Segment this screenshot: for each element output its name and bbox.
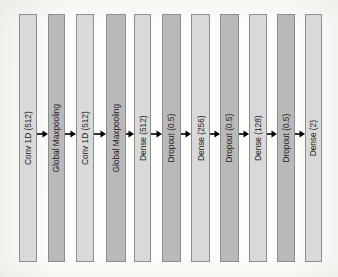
- layer-dense-128: Dense (128): [249, 14, 267, 262]
- arrow-right-icon: [94, 129, 106, 139]
- layer-label: Dense (2): [309, 120, 317, 156]
- layer-label: Dense (512): [138, 115, 146, 161]
- layer-dropout-05-c: Dropout (0.5): [277, 14, 295, 262]
- layer-label: Dense (128): [254, 115, 262, 161]
- layer-dropout-05-a: Dropout (0.5): [162, 14, 181, 262]
- layer-global-maxpooling-a: Global Maxpooling: [48, 14, 65, 262]
- arrow-right-icon: [239, 129, 249, 139]
- arrow-right-icon: [151, 129, 162, 139]
- layer-conv1d-512-a: Conv 1D (512): [19, 14, 37, 262]
- arrow-right-icon: [295, 129, 305, 139]
- arrow-right-icon: [37, 129, 48, 139]
- layer-label: Dense (256): [196, 115, 204, 161]
- layer-dense-256: Dense (256): [191, 14, 210, 262]
- layer-conv1d-512-b: Conv 1D (512): [76, 14, 94, 262]
- layer-dropout-05-b: Dropout (0.5): [220, 14, 239, 262]
- layer-label: Dropout (0.5): [225, 114, 233, 163]
- arrow-right-icon: [126, 129, 134, 139]
- layer-sequence: Conv 1D (512)Global MaxpoolingConv 1D (5…: [0, 0, 338, 277]
- layer-label: Dropout (0.5): [167, 114, 175, 163]
- layer-label: Conv 1D (512): [24, 111, 32, 165]
- architecture-diagram: Conv 1D (512)Global MaxpoolingConv 1D (5…: [0, 0, 338, 277]
- arrow-right-icon: [210, 129, 220, 139]
- layer-label: Global Maxpooling: [112, 104, 120, 173]
- layer-dense-2: Dense (2): [305, 14, 322, 262]
- arrow-right-icon: [181, 129, 191, 139]
- layer-global-maxpooling-b: Global Maxpooling: [106, 14, 126, 262]
- layer-label: Dropout (0.5): [282, 114, 290, 163]
- arrow-right-icon: [65, 129, 76, 139]
- layer-dense-512: Dense (512): [134, 14, 151, 262]
- layer-label: Global Maxpooling: [52, 104, 60, 173]
- layer-label: Conv 1D (512): [81, 111, 89, 165]
- arrow-right-icon: [267, 129, 277, 139]
